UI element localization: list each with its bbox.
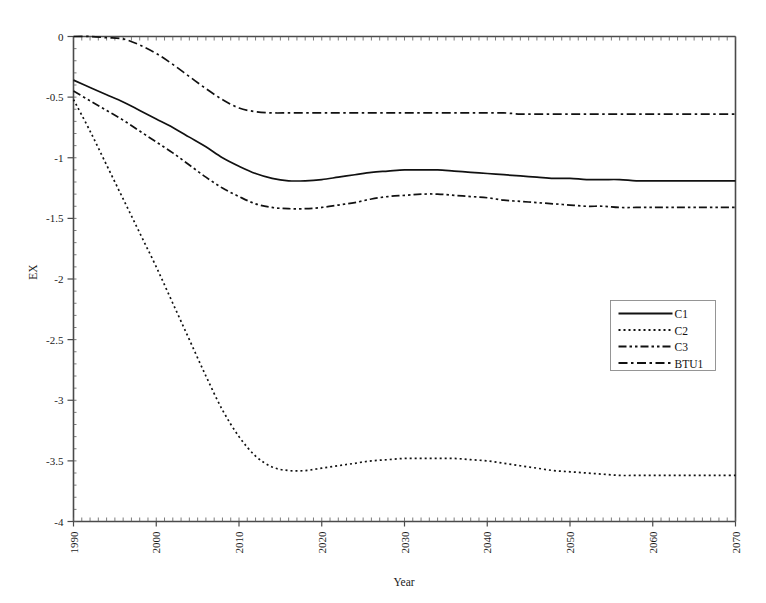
y-tick-label: -3.5 [46, 455, 64, 467]
y-tick-label: -2.5 [46, 334, 64, 346]
x-tick-label: 2050 [564, 531, 576, 554]
legend-label-c2: C2 [675, 325, 689, 337]
y-tick-label: -1 [54, 152, 63, 164]
data-series [74, 36, 736, 475]
x-axis-tick-labels: 199020002010202020302040205020602070 [68, 531, 742, 554]
y-tick-label: -1.5 [46, 212, 64, 224]
y-tick-label: -4 [54, 516, 64, 528]
legend-label-c3: C3 [675, 341, 689, 353]
series-line-c1 [74, 80, 736, 181]
legend-label-btu1: BTU1 [675, 358, 704, 370]
chart-legend: C1C2C3BTU1 [611, 301, 716, 371]
chart-figure: 0-0.5-1-1.5-2-2.5-3-3.5-4 19902000201020… [0, 0, 766, 603]
x-tick-label: 2060 [647, 531, 659, 554]
y-tick-label: -2 [54, 273, 63, 285]
y-axis-tick-labels: 0-0.5-1-1.5-2-2.5-3-3.5-4 [46, 31, 64, 528]
x-tick-label: 2010 [233, 531, 245, 554]
series-line-c3 [74, 91, 736, 209]
x-tick-label: 2040 [481, 531, 493, 554]
y-tick-label: -0.5 [46, 91, 64, 103]
minor-ticks [74, 37, 736, 522]
axes [74, 37, 736, 522]
legend-label-c1: C1 [675, 308, 689, 320]
y-tick-label: 0 [58, 31, 64, 43]
major-ticks [68, 37, 736, 527]
series-line-btu1 [74, 36, 736, 114]
x-tick-label: 2020 [316, 531, 328, 554]
x-tick-label: 1990 [68, 531, 80, 554]
x-tick-label: 2030 [399, 531, 411, 554]
series-line-c2 [74, 100, 736, 476]
line-chart: 0-0.5-1-1.5-2-2.5-3-3.5-4 19902000201020… [0, 0, 766, 603]
x-tick-label: 2070 [730, 531, 742, 554]
y-tick-label: -3 [54, 394, 64, 406]
x-axis-title: Year [393, 576, 414, 588]
y-axis-title: EX [27, 264, 39, 280]
x-tick-label: 2000 [150, 531, 162, 554]
